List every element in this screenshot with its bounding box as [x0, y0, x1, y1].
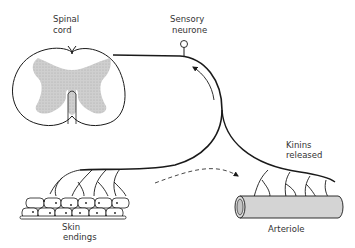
arteriole-nerve-endings: [254, 170, 328, 197]
label-arteriole: Arteriole: [268, 224, 305, 234]
axon-peripheral-branch: [222, 110, 335, 182]
label-sensory-neurone-line2: neurone: [172, 25, 207, 35]
label-spinal-cord-line2: cord: [53, 25, 72, 35]
skin-nerve-endings: [50, 169, 126, 196]
arteriole-body: [240, 196, 343, 218]
label-sensory-neurone-line1: Sensory: [170, 14, 204, 24]
diagram-canvas: Spinal cord Sensory neurone Kinins relea…: [0, 0, 355, 248]
sensory-neurone-cell-body: [181, 41, 188, 48]
label-skin-endings-line1: Skin: [62, 222, 80, 232]
label-kinins-line2: released: [286, 150, 322, 160]
label-spinal-cord-line1: Spinal: [53, 14, 79, 24]
axon-reflex-dashed-arrow: [155, 169, 238, 183]
skin-cells: [20, 198, 129, 219]
spinal-cord: [12, 46, 125, 126]
arteriole-lumen: [237, 199, 243, 215]
label-kinins-line1: Kinins: [286, 140, 312, 150]
label-skin-endings-line2: endings: [63, 232, 97, 242]
arteriole: [235, 196, 343, 218]
